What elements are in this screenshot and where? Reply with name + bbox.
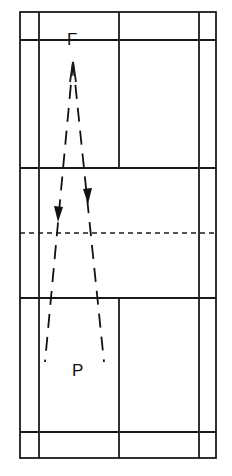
court-outer-boundary <box>20 12 216 458</box>
label-bottom-player: P <box>72 361 83 380</box>
badminton-court-diagram: F P <box>0 0 232 476</box>
right-shot-path <box>73 62 104 362</box>
court-svg: F P <box>0 0 232 476</box>
apex-marker <box>70 62 76 82</box>
left-arrowhead-icon <box>54 206 63 222</box>
right-arrowhead-icon <box>83 188 92 204</box>
label-top-player: F <box>67 30 77 49</box>
